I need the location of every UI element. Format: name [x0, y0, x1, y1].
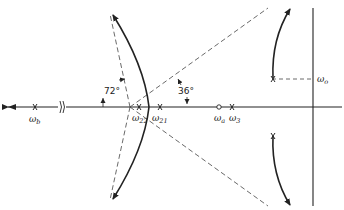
angle-36: 36°: [178, 79, 194, 104]
real-axis: [8, 104, 342, 110]
label-omega-b: ωb: [29, 114, 41, 126]
angle-36-label: 36°: [178, 86, 194, 96]
diagram-canvas: 72° 36° ωb ω22 ω21 ωa ω3 ωo: [0, 0, 344, 210]
zero-a-icon: [217, 105, 221, 109]
label-omega-22: ω22: [132, 113, 148, 125]
label-omega-o: ωo: [317, 74, 328, 86]
label-omega-a: ωa: [214, 113, 225, 125]
angle-72-label: 72°: [104, 86, 120, 96]
label-omega-3: ω3: [229, 113, 240, 125]
label-omega-21: ω21: [152, 113, 168, 125]
left-arrow-icon: [8, 104, 16, 110]
root-locus-diagram: 72° 36° ωb ω22 ω21 ωa ω3 ωo: [0, 0, 344, 210]
axis-break-icon: [60, 101, 65, 113]
angle-72: 72°: [103, 79, 125, 107]
